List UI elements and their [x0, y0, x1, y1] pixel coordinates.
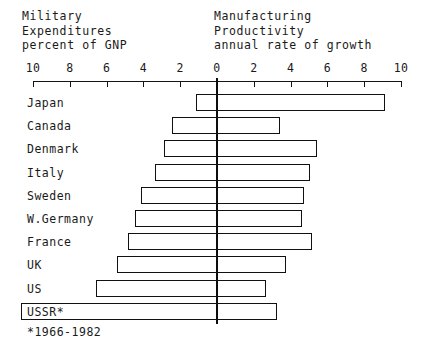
bar-row: Italy	[0, 162, 442, 185]
bar-row: Sweden	[0, 185, 442, 208]
row-label: Denmark	[27, 142, 79, 157]
bar-france	[128, 233, 312, 250]
bar-wgermany	[135, 210, 302, 227]
row-label: France	[27, 235, 72, 250]
bar-uk	[117, 256, 286, 273]
bar-denmark	[164, 140, 317, 157]
row-label: USSR*	[27, 305, 64, 320]
row-label: Sweden	[27, 189, 72, 204]
row-label: US	[27, 282, 42, 297]
bar-row: Denmark	[0, 138, 442, 161]
bar-row: W.Germany	[0, 208, 442, 231]
footnote: *1966-1982	[27, 325, 101, 339]
bar-canada	[172, 117, 281, 134]
row-label: W.Germany	[27, 212, 94, 227]
row-label: Canada	[27, 119, 72, 134]
chart-root: Military Expenditures percent of GNP Man…	[0, 0, 442, 363]
bar-row: France	[0, 231, 442, 254]
row-label: Italy	[27, 166, 64, 181]
row-label: Japan	[27, 96, 64, 111]
row-label: UK	[27, 258, 42, 273]
bar-us	[96, 280, 265, 297]
bar-row: UK	[0, 254, 442, 277]
bar-row: Japan	[0, 92, 442, 115]
bar-italy	[155, 164, 310, 181]
bar-row: Canada	[0, 115, 442, 138]
bar-rows: JapanCanadaDenmarkItalySwedenW.GermanyFr…	[0, 0, 442, 363]
bar-row: US	[0, 278, 442, 301]
bar-sweden	[141, 187, 305, 204]
bar-japan	[196, 94, 386, 111]
bar-row: USSR*	[0, 301, 442, 324]
